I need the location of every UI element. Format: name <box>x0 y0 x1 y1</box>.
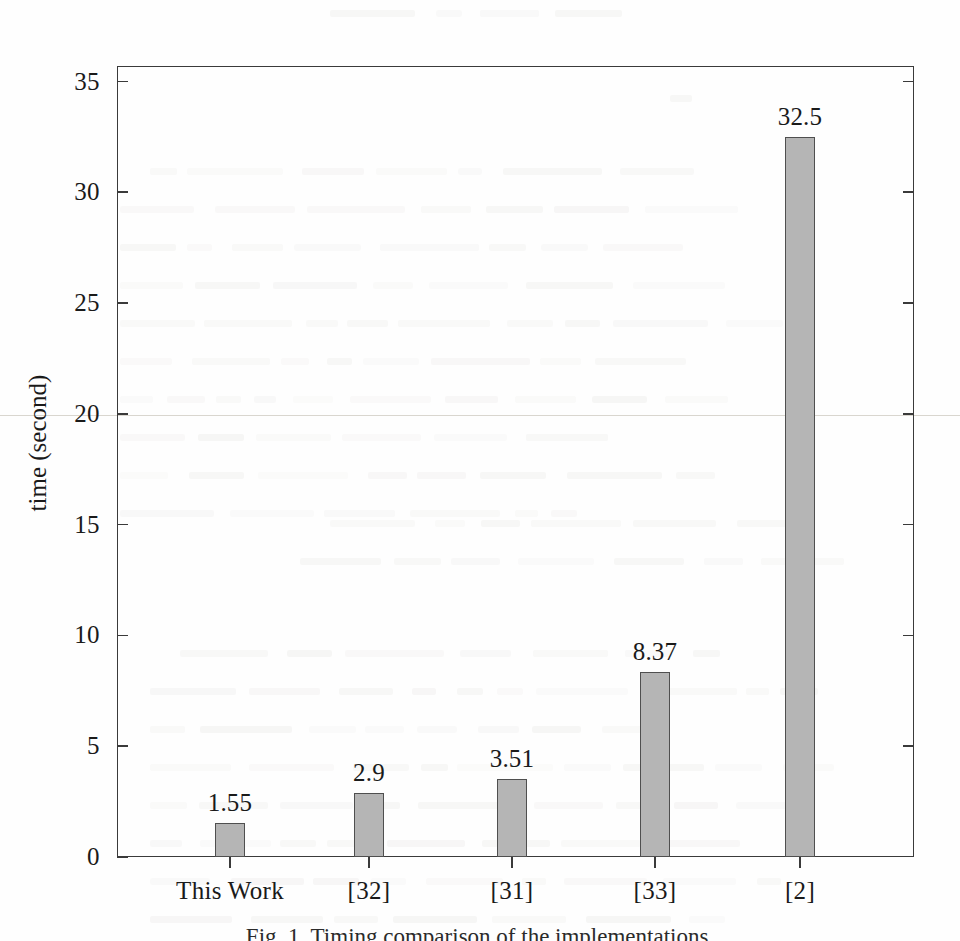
x-tick-label: [32] <box>348 877 391 905</box>
y-tick-mark-right <box>903 302 914 304</box>
y-tick-mark-right <box>903 413 914 415</box>
bar-value-label: 1.55 <box>208 789 253 816</box>
y-tick-mark-right <box>903 745 914 747</box>
bar-32 <box>354 793 384 857</box>
bar-value-label: 32.5 <box>778 103 823 130</box>
y-tick-label: 35 <box>40 69 100 94</box>
figure-page: time (second) 05101520253035 1.552.93.51… <box>0 0 960 941</box>
figure-caption: Fig. 1. Timing comparison of the impleme… <box>0 924 960 941</box>
bar-value-label: 3.51 <box>490 745 535 772</box>
bar-value-label: 8.37 <box>633 638 678 665</box>
x-tick-label: [33] <box>634 877 677 905</box>
y-tick-label: 15 <box>40 512 100 537</box>
y-tick-label: 0 <box>40 844 100 869</box>
bar-31 <box>497 779 527 857</box>
bar-this-work <box>215 823 245 857</box>
y-tick-label: 5 <box>40 733 100 758</box>
y-tick-mark-right <box>903 191 914 193</box>
y-tick-mark-right <box>903 524 914 526</box>
y-tick-mark-right <box>903 635 914 637</box>
x-tick-mark <box>799 857 801 868</box>
x-tick-mark <box>654 857 656 868</box>
y-tick-label: 25 <box>40 290 100 315</box>
y-tick-label: 20 <box>40 401 100 426</box>
x-tick-mark <box>368 857 370 868</box>
x-tick-mark <box>229 857 231 868</box>
bar-value-label: 2.9 <box>353 759 385 786</box>
bar-2 <box>785 137 815 857</box>
x-tick-label: [2] <box>785 877 815 905</box>
x-tick-label: This Work <box>176 877 284 905</box>
y-tick-label: 30 <box>40 179 100 204</box>
bar-33 <box>640 672 670 857</box>
x-tick-mark <box>511 857 513 868</box>
y-tick-label: 10 <box>40 622 100 647</box>
y-tick-mark-right <box>903 81 914 83</box>
x-tick-label: [31] <box>491 877 534 905</box>
